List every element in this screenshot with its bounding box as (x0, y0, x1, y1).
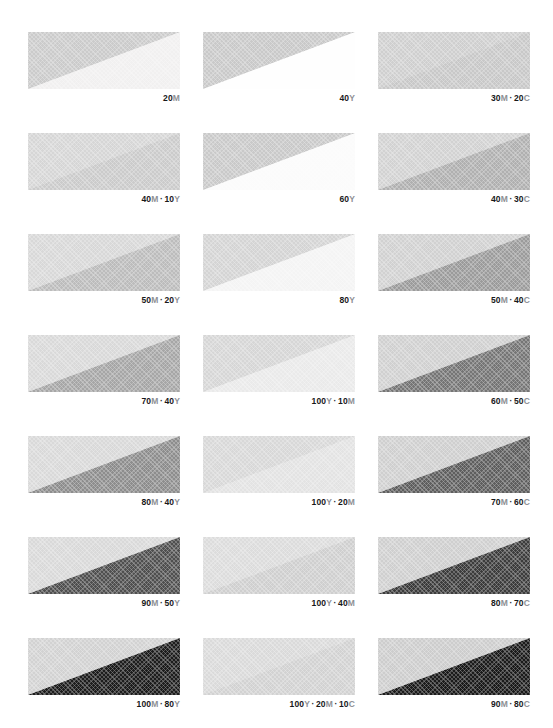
color-swatch (378, 638, 530, 695)
ink-percentage: 100 (137, 699, 152, 709)
swatch-label: 50M·40C (378, 295, 530, 306)
ink-initial: M (348, 497, 355, 507)
color-swatch (28, 436, 180, 493)
ink-initial: Y (349, 93, 355, 103)
ink-initial: M (501, 295, 508, 305)
color-swatch (203, 335, 355, 392)
swatch-label: 60M·50C (378, 396, 530, 407)
ink-percentage: 60 (514, 497, 524, 507)
swatch-cell: 100Y·40M (203, 537, 355, 609)
swatch-label: 100Y·20M (203, 497, 355, 508)
swatch-label: 40M·10Y (28, 194, 180, 205)
ink-percentage: 90 (141, 598, 151, 608)
swatch-label: 100Y·10M (203, 396, 355, 407)
swatch-cell: 100Y·20M (203, 436, 355, 508)
swatch-label: 70M·60C (378, 497, 530, 508)
ink-initial: M (501, 497, 508, 507)
swatch-cell: 100M·80Y (28, 638, 180, 710)
swatch-cell: 50M·20Y (28, 234, 180, 306)
ink-initial: M (501, 194, 508, 204)
tint-reference-triangle (203, 638, 355, 695)
ink-initial: Y (349, 194, 355, 204)
swatch-label: 20M (28, 93, 180, 104)
color-swatch (378, 133, 530, 190)
swatch-cell: 70M·40Y (28, 335, 180, 407)
ink-initial: C (524, 497, 530, 507)
tint-reference-triangle (378, 133, 530, 190)
swatch-cell: 60Y (203, 133, 355, 205)
tint-reference-triangle (28, 32, 180, 89)
ink-percentage: 60 (339, 194, 349, 204)
ink-percentage: 70 (141, 396, 151, 406)
swatch-cell: 100Y·10M (203, 335, 355, 407)
swatch-cell: 90M·50Y (28, 537, 180, 609)
swatch-label: 60Y (203, 194, 355, 205)
tint-reference-triangle (203, 234, 355, 291)
color-swatch (28, 537, 180, 594)
swatch-label: 100M·80Y (28, 699, 180, 710)
ink-initial: M (501, 396, 508, 406)
swatch-cell: 40Y (203, 32, 355, 104)
swatch-cell: 50M·40C (378, 234, 530, 306)
swatch-cell: 100Y·20M·10C (203, 638, 355, 710)
ink-initial: Y (174, 295, 180, 305)
swatch-label: 90M·80C (378, 699, 530, 710)
color-swatch (378, 32, 530, 89)
ink-percentage: 30 (514, 194, 524, 204)
tint-reference-triangle (28, 234, 180, 291)
swatch-label: 50M·20Y (28, 295, 180, 306)
ink-initial: Y (174, 699, 180, 709)
color-swatch (28, 133, 180, 190)
swatch-label: 90M·50Y (28, 598, 180, 609)
color-swatch (203, 133, 355, 190)
ink-percentage: 20 (514, 93, 524, 103)
tint-reference-triangle (28, 638, 180, 695)
swatch-label: 80M·70C (378, 598, 530, 609)
tint-reference-triangle (28, 133, 180, 190)
swatch-cell: 40M·30C (378, 133, 530, 205)
tint-reference-triangle (203, 436, 355, 493)
tint-reference-triangle (28, 335, 180, 392)
swatch-cell: 80M·70C (378, 537, 530, 609)
tint-reference-triangle (203, 32, 355, 89)
swatch-grid: 20M40Y30M·20C40M·10Y60Y40M·30C50M·20Y80Y… (28, 32, 527, 728)
swatch-label: 70M·40Y (28, 396, 180, 407)
color-swatch (203, 638, 355, 695)
tint-reference-triangle (28, 436, 180, 493)
tint-reference-triangle (378, 436, 530, 493)
ink-percentage: 10 (338, 396, 348, 406)
ink-percentage: 80 (491, 598, 501, 608)
ink-initial: C (524, 396, 530, 406)
color-swatch (378, 234, 530, 291)
ink-percentage: 10 (164, 194, 174, 204)
ink-percentage: 40 (491, 194, 501, 204)
swatch-cell: 20M (28, 32, 180, 104)
ink-initial: Y (349, 295, 355, 305)
ink-initial: Y (174, 194, 180, 204)
ink-percentage: 100 (312, 497, 327, 507)
color-swatch (203, 234, 355, 291)
swatch-label: 30M·20C (378, 93, 530, 104)
tint-reference-triangle (378, 537, 530, 594)
swatch-cell: 80M·40Y (28, 436, 180, 508)
color-swatch (203, 537, 355, 594)
ink-percentage: 30 (491, 93, 501, 103)
color-swatch (203, 436, 355, 493)
swatch-cell: 60M·50C (378, 335, 530, 407)
ink-percentage: 80 (164, 699, 174, 709)
ink-percentage: 100 (312, 598, 327, 608)
color-swatch (203, 32, 355, 89)
color-swatch (378, 335, 530, 392)
tint-reference-triangle (203, 537, 355, 594)
ink-initial: C (524, 93, 530, 103)
tint-reference-triangle (378, 638, 530, 695)
swatch-cell: 80Y (203, 234, 355, 306)
swatch-sheet: 20M40Y30M·20C40M·10Y60Y40M·30C50M·20Y80Y… (0, 0, 553, 728)
ink-initial: M (501, 93, 508, 103)
tint-reference-triangle (378, 32, 530, 89)
ink-percentage: 80 (339, 295, 349, 305)
swatch-cell: 30M·20C (378, 32, 530, 104)
color-swatch (28, 638, 180, 695)
ink-initial: Y (174, 497, 180, 507)
swatch-cell: 90M·80C (378, 638, 530, 710)
